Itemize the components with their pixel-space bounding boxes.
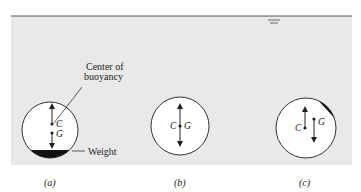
buoyancy-stability-figure: C G Center of buoyancy Weight (a) C G (b… <box>0 0 361 192</box>
caption-b: (b) <box>174 177 186 189</box>
label-g-c: G <box>318 117 325 127</box>
caption-c: (c) <box>299 177 311 189</box>
label-g-b: G <box>184 121 191 131</box>
buoyancy-label-line2: buoyancy <box>84 71 123 82</box>
center-of-gravity-point-a <box>50 131 53 134</box>
label-c-b: C <box>170 121 177 131</box>
center-of-buoyancy-point-c <box>303 126 306 129</box>
center-point-b <box>178 124 181 127</box>
center-of-gravity-point-c <box>312 117 315 120</box>
center-of-buoyancy-point-a <box>50 122 53 125</box>
label-c-c: C <box>295 123 302 133</box>
label-g-a: G <box>56 129 63 139</box>
float-circle-a <box>22 102 78 158</box>
label-c-a: C <box>56 119 63 129</box>
panel-c: C G (c) <box>276 96 340 189</box>
weight-label: Weight <box>88 146 117 157</box>
panel-b: C G (b) <box>151 97 209 189</box>
caption-a: (a) <box>44 177 56 189</box>
